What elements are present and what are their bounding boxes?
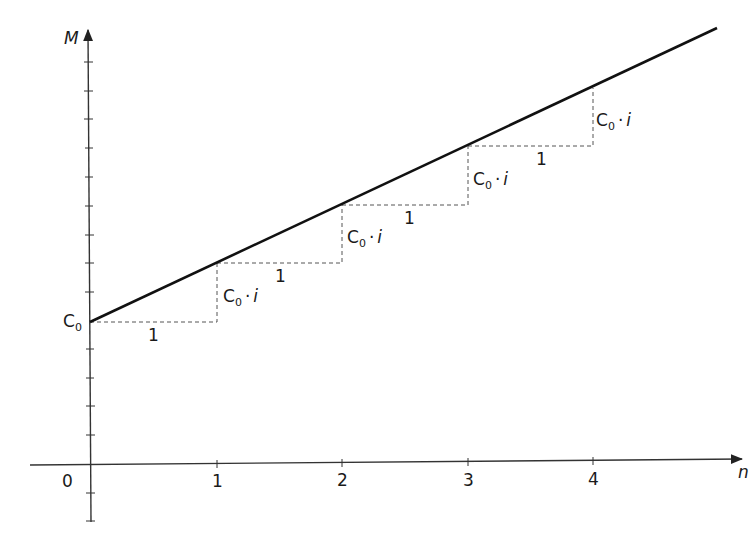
linear-growth-diagram: M n 0 1 2 3 4 C0 1 C0·i 1 C0·i 1 C0·i 1 … [0, 0, 750, 546]
y-axis [84, 30, 95, 522]
x-tick-label-1: 1 [212, 471, 223, 491]
step-rise-label-2: C0·i [347, 227, 382, 250]
x-tick-label-4: 4 [588, 469, 599, 489]
c0-label: C0 [63, 311, 82, 334]
x-tick-label-2: 2 [337, 470, 348, 490]
origin-label: 0 [62, 471, 73, 491]
step-run-label-4: 1 [536, 149, 547, 169]
x-axis [30, 457, 742, 468]
step-run-label-3: 1 [404, 208, 415, 228]
step-run-label-2: 1 [275, 266, 286, 286]
y-axis-label: M [64, 28, 79, 48]
step-rise-label-3: C0·i [473, 169, 508, 192]
growth-line [90, 28, 717, 322]
x-tick-label-3: 3 [463, 470, 474, 490]
step-rise-label-4: C0·i [596, 110, 631, 133]
step-rise-label-1: C0·i [223, 286, 258, 309]
x-axis-label: n [738, 462, 749, 482]
step-run-label-1: 1 [148, 325, 159, 345]
